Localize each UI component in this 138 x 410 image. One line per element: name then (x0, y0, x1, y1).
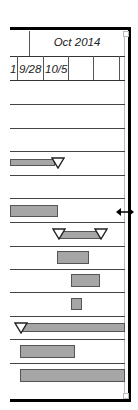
task-bar[interactable] (57, 251, 89, 264)
row-divider (10, 128, 125, 129)
task-bar[interactable] (71, 298, 82, 310)
day-divider (43, 56, 44, 80)
day-label: 9/28 (19, 63, 41, 75)
day-label: 10/5 (45, 63, 67, 75)
day-label: 1 (10, 63, 16, 75)
row-divider (10, 363, 125, 364)
month-divider (29, 31, 30, 56)
row-divider (10, 246, 125, 247)
row-divider (10, 269, 125, 270)
row-divider (10, 151, 125, 152)
day-divider (68, 56, 69, 80)
row-divider (10, 198, 125, 199)
day-divider (17, 56, 18, 80)
task-bar[interactable] (71, 274, 100, 287)
row-divider (10, 339, 125, 340)
row-divider (10, 175, 125, 176)
pane-border-top (10, 27, 130, 30)
task-bar[interactable] (22, 323, 125, 332)
day-divider (93, 56, 94, 80)
task-bar[interactable] (20, 345, 75, 358)
pane-border-bottom (10, 399, 131, 402)
month-label: Oct 2014 (31, 36, 123, 48)
task-bar[interactable] (10, 205, 58, 217)
corner-handle-bottom (123, 393, 129, 399)
corner-handle-top (123, 31, 129, 37)
row-divider (10, 222, 125, 223)
header-bottom-line (10, 80, 125, 81)
day-divider (119, 56, 120, 80)
task-bar[interactable] (10, 159, 55, 166)
row-divider (10, 292, 125, 293)
row-divider (10, 104, 125, 105)
row-divider (10, 316, 125, 317)
task-bar[interactable] (20, 369, 125, 382)
resize-horizontal-icon (116, 204, 134, 216)
